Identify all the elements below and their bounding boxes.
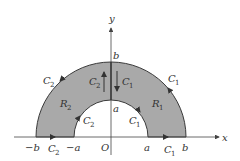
- label-c2-outer: C 2: [43, 75, 54, 89]
- svg-text:2: 2: [90, 121, 94, 129]
- tick-pos-b: b: [182, 142, 188, 153]
- x-axis-label: x: [222, 132, 228, 143]
- svg-text:2: 2: [55, 149, 59, 157]
- origin-label: O: [101, 142, 109, 153]
- svg-text:1: 1: [129, 82, 133, 90]
- tick-pos-a: a: [144, 142, 150, 153]
- svg-text:1: 1: [136, 121, 140, 129]
- svg-text:1: 1: [159, 104, 163, 112]
- svg-text:2: 2: [67, 104, 71, 112]
- y-axis-label: y: [108, 13, 115, 24]
- tick-y-b: b: [113, 50, 119, 61]
- tick-neg-a: −a: [66, 142, 80, 153]
- label-c2-inner: C 2: [83, 115, 94, 129]
- svg-text:2: 2: [96, 82, 100, 90]
- label-c1-segment: C 1: [164, 144, 175, 158]
- svg-text:1: 1: [171, 150, 175, 158]
- annulus-diagram: x y O −b −a a b b a R 2 R 1 C 2 C 1 C 2: [0, 0, 240, 161]
- svg-text:2: 2: [50, 81, 54, 89]
- label-c1-outer: C 1: [168, 73, 179, 87]
- tick-neg-b: −b: [25, 142, 40, 153]
- label-c1-inner: C 1: [129, 115, 140, 129]
- tick-y-a: a: [113, 103, 119, 114]
- svg-text:1: 1: [175, 79, 179, 87]
- label-c2-segment: C 2: [48, 143, 59, 157]
